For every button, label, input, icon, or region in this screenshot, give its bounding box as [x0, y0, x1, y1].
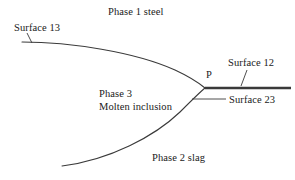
phase-2-label: Phase 2 slag — [152, 152, 205, 165]
junction-point-label: P — [206, 69, 212, 82]
surface-13-curve — [22, 42, 205, 88]
surface-23-label: Surface 23 — [229, 94, 275, 107]
phase-1-label: Phase 1 steel — [108, 6, 164, 19]
phase-3-label-line2: Molten inclusion — [99, 101, 172, 112]
surface-12-label: Surface 12 — [228, 57, 274, 70]
phase-3-label: Phase 3Molten inclusion — [99, 88, 172, 113]
phase-3-label-line1: Phase 3 — [99, 88, 132, 99]
surface-13-label: Surface 13 — [14, 22, 60, 35]
phase-junction-diagram: Phase 1 steel Surface 13 Surface 12 Surf… — [0, 0, 295, 180]
surface-12-leader — [241, 70, 247, 86]
